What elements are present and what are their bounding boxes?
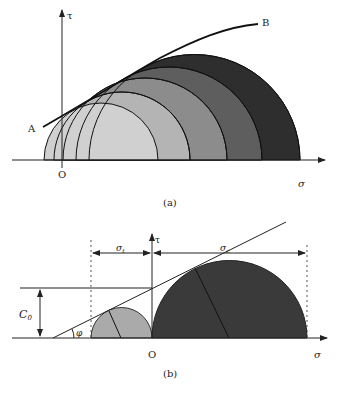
origin-label-b: O xyxy=(148,349,156,360)
tau-label-a: τ xyxy=(67,10,73,21)
friction-angle-arc xyxy=(72,329,74,338)
tensile-strength-label: σt xyxy=(116,243,125,254)
cohesion-label: C0 xyxy=(19,308,32,322)
sigma-label-a: σ xyxy=(298,178,306,189)
point-a-label: A xyxy=(27,123,36,134)
tensile-mohr-circle xyxy=(91,307,152,338)
panel-a: τ B A O σ (a) xyxy=(12,10,325,208)
compressive-mohr-circle xyxy=(152,261,307,339)
tau-label-b: τ xyxy=(155,235,160,245)
friction-angle-label: φ xyxy=(76,328,83,338)
point-b-label: B xyxy=(262,17,269,28)
sigma-label-b: σ xyxy=(314,349,322,360)
caption-b: (b) xyxy=(163,368,177,379)
compressive-strength-label: σc xyxy=(220,243,230,254)
caption-a: (a) xyxy=(163,197,177,208)
panel-b: τ σt σc C0 φ O σ (b) xyxy=(12,222,327,379)
origin-label-a: O xyxy=(58,169,66,180)
mohr-coulomb-figure: τ B A O σ (a) τ σt xyxy=(0,0,339,393)
